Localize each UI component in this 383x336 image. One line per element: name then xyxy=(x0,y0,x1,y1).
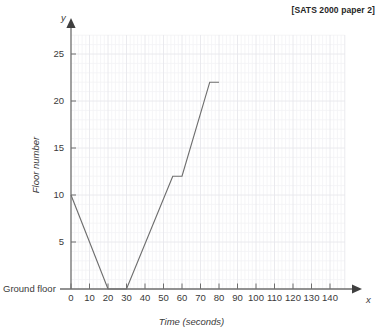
y-tick-label-15: 15 xyxy=(42,142,64,153)
y-axis-letter: y xyxy=(61,12,66,23)
y-tick-label-20: 20 xyxy=(42,95,64,106)
y-tick-label-5: 5 xyxy=(42,236,64,247)
x-axis-label: Time (seconds) xyxy=(0,316,383,327)
y-tick-label-25: 25 xyxy=(42,48,64,59)
grid-minor xyxy=(71,35,345,289)
x-tick-label-140: 140 xyxy=(319,292,341,303)
x-axis-letter: x xyxy=(366,294,371,305)
y-axis-label: Floor number xyxy=(30,137,41,194)
source-note: [SATS 2000 paper 2] xyxy=(292,5,375,15)
ground-floor-label: Ground floor xyxy=(3,283,56,294)
y-axis-label-wrap: Floor number xyxy=(26,110,44,220)
y-tick-label-10: 10 xyxy=(42,189,64,200)
